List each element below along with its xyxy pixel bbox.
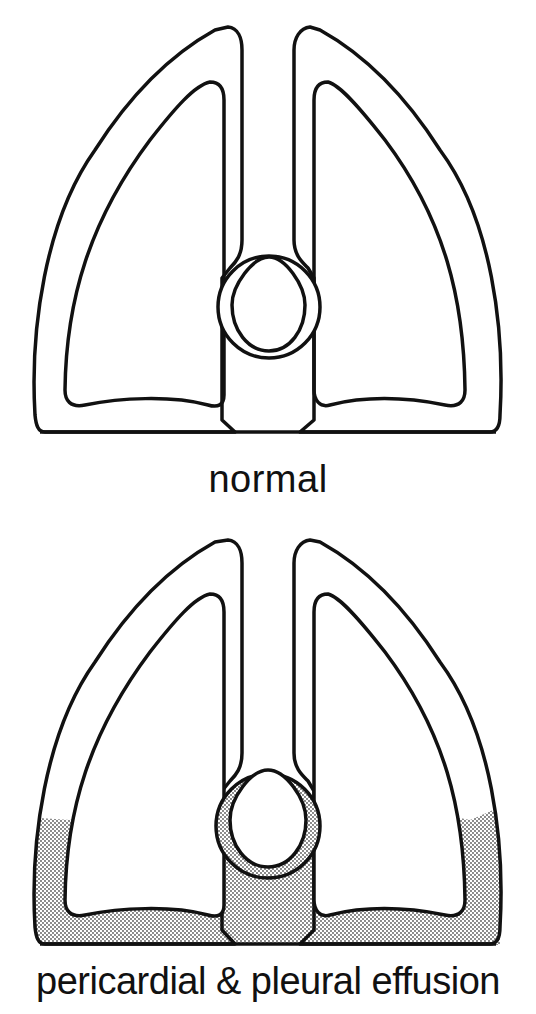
effusion-diagram <box>0 520 536 960</box>
caption-effusion: pericardial & pleural effusion <box>0 960 536 1003</box>
chest-cross-section-normal <box>0 0 536 450</box>
right-lung <box>314 82 465 406</box>
left-lung <box>65 594 224 916</box>
left-lung <box>65 82 224 406</box>
right-pleural-cavity <box>294 27 501 432</box>
right-lung <box>314 594 465 916</box>
chest-cross-section-effusion <box>0 520 536 960</box>
normal-diagram <box>0 0 536 450</box>
caption-normal: normal <box>0 458 536 501</box>
